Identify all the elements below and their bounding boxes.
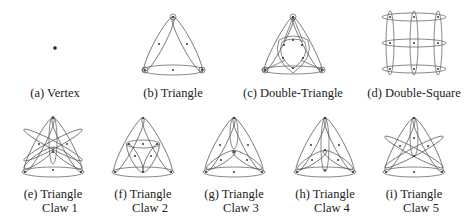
caption-triangle-claw-5: (i) TriangleClaw 5 bbox=[386, 187, 443, 215]
caption-triangle-claw-2: (f) TriangleClaw 2 bbox=[114, 187, 171, 215]
caption-triangle-claw-1: (e) TriangleClaw 1 bbox=[24, 187, 83, 215]
caption-vertex: (a) Vertex bbox=[30, 86, 79, 100]
triangle-claw-2-diagram bbox=[110, 115, 176, 177]
caption-double-triangle: (c) Double-Triangle bbox=[243, 86, 343, 100]
triangle-claw-4-diagram bbox=[292, 115, 358, 177]
caption-text: (d) Double-Square bbox=[367, 86, 460, 100]
caption-text: (a) Vertex bbox=[30, 86, 79, 100]
triangle-claw-1-diagram bbox=[20, 115, 86, 177]
caption-line2: Claw 5 bbox=[386, 201, 443, 215]
caption-line2: Claw 2 bbox=[114, 201, 171, 215]
caption-line1: (i) Triangle bbox=[386, 187, 443, 201]
caption-line1: (g) Triangle bbox=[204, 187, 263, 201]
caption-line2: Claw 1 bbox=[24, 201, 83, 215]
caption-line1: (f) Triangle bbox=[114, 187, 171, 201]
caption-text: (b) Triangle bbox=[143, 86, 202, 100]
caption-line1: (e) Triangle bbox=[24, 187, 83, 201]
triangle-claw-5-diagram bbox=[381, 115, 447, 177]
caption-line2: Claw 4 bbox=[295, 201, 354, 215]
caption-double-square: (d) Double-Square bbox=[367, 86, 460, 100]
caption-triangle-claw-4: (h) TriangleClaw 4 bbox=[295, 187, 354, 215]
caption-line1: (h) Triangle bbox=[295, 187, 354, 201]
caption-triangle: (b) Triangle bbox=[143, 86, 202, 100]
double-triangle-diagram bbox=[261, 14, 325, 74]
triangle-diagram bbox=[140, 14, 206, 75]
caption-text: (c) Double-Triangle bbox=[243, 86, 343, 100]
caption-line2: Claw 3 bbox=[204, 201, 263, 215]
triangle-claw-3-diagram bbox=[201, 115, 267, 177]
caption-triangle-claw-3: (g) TriangleClaw 3 bbox=[204, 187, 263, 215]
